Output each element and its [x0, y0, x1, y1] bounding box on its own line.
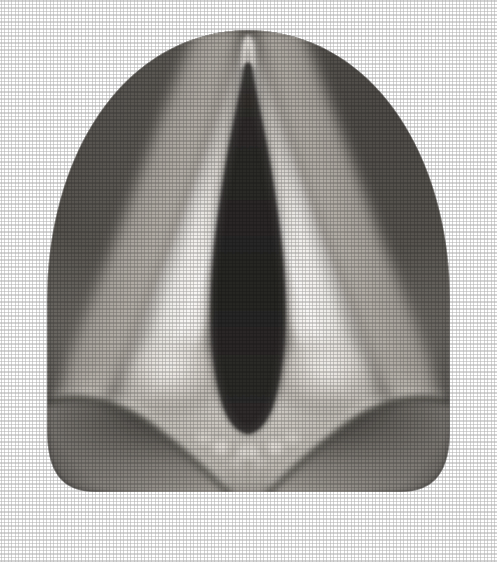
laryngoscopic-view-illustration [0, 0, 497, 562]
illustration-canvas: Laryngoscopic view of the larynx glottis… [0, 0, 497, 562]
